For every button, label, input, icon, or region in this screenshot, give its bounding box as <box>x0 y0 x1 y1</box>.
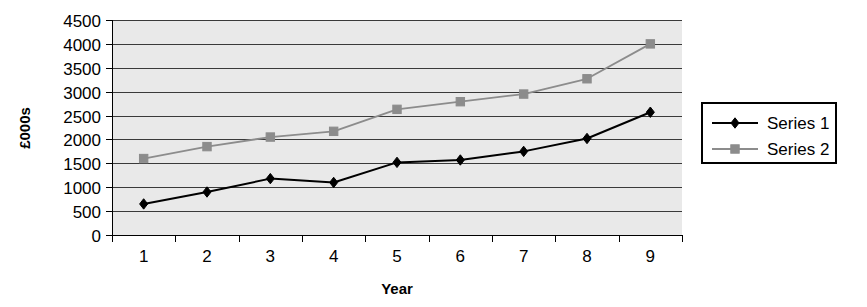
x-axis-title: Year <box>381 280 413 297</box>
x-tick-label: 1 <box>139 247 148 266</box>
data-point-marker <box>266 133 274 141</box>
x-tick-label: 6 <box>456 247 465 266</box>
y-tick-label: 1500 <box>63 155 101 174</box>
y-axis-title: £000s <box>16 107 33 149</box>
data-point-marker <box>329 127 337 135</box>
y-tick-label: 3500 <box>63 60 101 79</box>
y-tick-label: 2500 <box>63 108 101 127</box>
line-chart: 050010001500200025003000350040004500 123… <box>0 0 867 307</box>
x-tick-label: 5 <box>392 247 401 266</box>
x-tick-label: 9 <box>646 247 655 266</box>
x-tick-label: 3 <box>266 247 275 266</box>
plot-area-background <box>112 20 682 235</box>
data-point-marker <box>203 142 211 150</box>
data-point-marker <box>646 40 654 48</box>
legend: Series 1Series 2 <box>702 103 836 163</box>
data-point-marker <box>731 145 739 153</box>
y-tick-label: 1000 <box>63 179 101 198</box>
data-point-marker <box>519 90 527 98</box>
x-tick-label: 4 <box>329 247 338 266</box>
y-tick-label: 500 <box>73 203 101 222</box>
chart-canvas: 050010001500200025003000350040004500 123… <box>0 0 867 307</box>
x-tick-label: 8 <box>582 247 591 266</box>
legend-label: Series 1 <box>767 114 829 133</box>
legend-label: Series 2 <box>767 140 829 159</box>
y-tick-label: 0 <box>92 227 101 246</box>
data-point-marker <box>393 105 401 113</box>
data-point-marker <box>583 75 591 83</box>
data-point-marker <box>139 154 147 162</box>
x-tick-label: 7 <box>519 247 528 266</box>
y-tick-label: 2000 <box>63 131 101 150</box>
y-tick-label: 3000 <box>63 84 101 103</box>
x-tick-label: 2 <box>202 247 211 266</box>
y-tick-label: 4500 <box>63 12 101 31</box>
y-tick-label: 4000 <box>63 36 101 55</box>
data-point-marker <box>456 98 464 106</box>
